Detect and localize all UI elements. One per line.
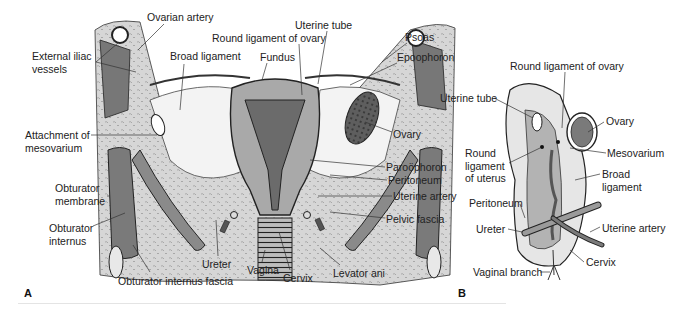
label-b-broad: Broad <box>602 168 630 181</box>
label-membrane: membrane <box>55 195 105 208</box>
label-vagina: Vagina <box>247 264 279 277</box>
label-b-round-ligament-ovary: Round ligament of ovary <box>510 60 624 73</box>
label-paroophoron: Paroöphoron <box>386 161 447 174</box>
label-b-cervix: Cervix <box>586 256 616 269</box>
label-b-ligament: ligament <box>465 160 505 173</box>
label-b-round: Round <box>465 147 496 160</box>
label-psoas: Psoas <box>405 31 434 44</box>
label-b-mesovarium: Mesovarium <box>607 147 664 160</box>
label-b-of-uterus: of uterus <box>465 172 506 185</box>
label-b-uterine-artery: Uterine artery <box>602 222 666 235</box>
label-obturator-internus-fascia: Obturator internus fascia <box>118 275 233 288</box>
label-cervix: Cervix <box>283 272 313 285</box>
label-b-peritoneum: Peritoneum <box>469 197 523 210</box>
label-round-ligament-ovary: Round ligament of ovary <box>212 32 326 45</box>
label-obturator: Obturator <box>55 182 99 195</box>
label-b-broad-ligament: ligament <box>602 181 642 194</box>
panel-label-a: A <box>24 287 32 299</box>
label-epoophoron: Epoophoron <box>397 51 454 64</box>
label-b-ovary: Ovary <box>606 115 634 128</box>
label-external-iliac: External iliac <box>32 50 92 63</box>
label-obturator-2: Obturator <box>49 222 93 235</box>
label-levator-ani: Levator ani <box>333 267 385 280</box>
label-internus: internus <box>49 235 86 248</box>
panel-b-drawing <box>506 84 602 280</box>
label-uterine-tube: Uterine tube <box>295 19 352 32</box>
label-mesovarium: mesovarium <box>25 142 82 155</box>
label-peritoneum: Peritoneum <box>388 174 442 187</box>
panel-label-b: B <box>458 287 466 299</box>
anatomy-figure: Ovarian artery External iliac vessels Br… <box>0 0 685 318</box>
label-b-vaginal-branch: Vaginal branch <box>473 266 542 279</box>
label-ureter: Ureter <box>202 258 231 271</box>
label-uterine-artery: Uterine artery <box>393 190 457 203</box>
label-broad-ligament: Broad ligament <box>170 50 241 63</box>
label-pelvic-fascia: Pelvic fascia <box>386 213 444 226</box>
label-vessels: vessels <box>32 63 67 76</box>
label-ovary: Ovary <box>393 128 421 141</box>
label-fundus: Fundus <box>260 51 295 64</box>
label-ovarian-artery: Ovarian artery <box>147 11 214 24</box>
label-attachment-of: Attachment of <box>25 129 90 142</box>
label-b-ureter: Ureter <box>476 223 505 236</box>
label-b-uterine-tube: Uterine tube <box>440 92 497 105</box>
bottom-divider <box>18 303 506 304</box>
